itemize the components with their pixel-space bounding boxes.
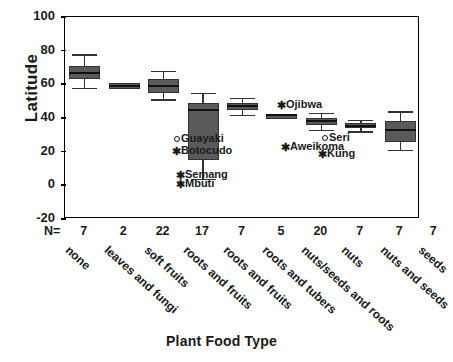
- n-value-5: 7: [222, 224, 262, 238]
- x-category-label-5: roots and fruits: [220, 243, 295, 312]
- sample-size-row: N= 7222177520777: [0, 224, 443, 240]
- whisker-cap-upper: [72, 54, 97, 56]
- outlier-annotation-guayaki: Guayaki: [172, 132, 224, 144]
- whisker-cap-lower: [230, 115, 255, 117]
- n-value-8: 7: [340, 224, 380, 238]
- n-value-3: 22: [143, 224, 183, 238]
- whisker-upper: [84, 54, 85, 66]
- whisker-cap-upper: [348, 120, 373, 122]
- median-line: [188, 109, 219, 111]
- y-tick-label: 20: [15, 143, 55, 158]
- whisker-lower: [84, 79, 85, 87]
- x-category-label-10: seeds: [416, 243, 451, 276]
- median-line: [345, 125, 376, 127]
- x-category-label-4: roots and fruits: [181, 243, 256, 312]
- n-value-1: 7: [64, 224, 104, 238]
- whisker-cap-upper: [151, 71, 176, 73]
- asterisk-icon: ✱: [281, 140, 290, 153]
- whisker-cap-upper: [191, 93, 216, 95]
- y-tick-mark: [61, 184, 66, 186]
- median-line: [266, 114, 297, 116]
- x-axis-category-labels: noneleaves and fungisoft fruitsroots and…: [0, 243, 443, 323]
- median-line: [148, 85, 179, 87]
- median-line: [109, 85, 140, 87]
- median-line: [227, 105, 258, 107]
- y-tick-label: 60: [15, 75, 55, 90]
- whisker-cap-upper: [230, 98, 255, 100]
- median-line: [306, 120, 337, 122]
- whisker-upper: [202, 93, 203, 103]
- n-value-10: 7: [413, 224, 453, 238]
- whisker-upper: [400, 111, 401, 121]
- y-tick-label: 80: [15, 42, 55, 57]
- x-category-label-8: nuts: [338, 243, 366, 270]
- median-line: [69, 72, 100, 74]
- outlier-annotation-mbuti: ✱Mbuti: [176, 177, 214, 190]
- outlier-annotation-botocudo: ✱Botocudo: [172, 144, 232, 157]
- outlier-label: Guayaki: [181, 132, 224, 144]
- n-label: N=: [44, 224, 60, 238]
- whisker-cap-lower: [151, 99, 176, 101]
- outlier-label: Kung: [327, 147, 355, 159]
- y-tick-mark: [61, 16, 66, 18]
- median-line: [385, 129, 416, 131]
- y-tick-label: 40: [15, 109, 55, 124]
- x-category-label-1: none: [62, 243, 93, 273]
- plot-area: 100806040200-20: [64, 16, 419, 218]
- n-value-2: 2: [103, 224, 143, 238]
- asterisk-icon: ✱: [318, 147, 327, 160]
- y-tick-label: -20: [15, 210, 55, 225]
- y-tick-label: 100: [15, 8, 55, 23]
- x-axis-title: Plant Food Type: [0, 333, 443, 349]
- outlier-label: Ojibwa: [286, 98, 322, 110]
- outlier-annotation-ojibwa: ✱Ojibwa: [277, 98, 322, 111]
- n-value-4: 17: [182, 224, 222, 238]
- outlier-label: Mbuti: [185, 177, 214, 189]
- open-circle-icon: [320, 131, 329, 143]
- whisker-cap-lower: [348, 131, 373, 133]
- outlier-annotation-kung: ✱Kung: [318, 147, 355, 160]
- outlier-label: Botocudo: [181, 144, 232, 156]
- whisker-lower: [400, 142, 401, 150]
- whisker-cap-lower: [72, 88, 97, 90]
- outlier-annotation-seri: Seri: [320, 131, 350, 143]
- asterisk-icon: ✱: [277, 98, 286, 111]
- whisker-cap-upper: [309, 113, 334, 115]
- outlier-label: Seri: [329, 131, 350, 143]
- asterisk-icon: ✱: [176, 177, 185, 190]
- n-value-6: 5: [261, 224, 301, 238]
- asterisk-icon: ✱: [172, 144, 181, 157]
- box-rect: [385, 121, 416, 141]
- whisker-cap-lower: [388, 150, 413, 152]
- y-tick-mark: [61, 117, 66, 119]
- y-tick-mark: [61, 151, 66, 153]
- n-value-7: 20: [300, 224, 340, 238]
- y-tick-mark: [61, 83, 66, 85]
- whisker-cap-upper: [388, 111, 413, 113]
- y-tick-mark: [61, 50, 66, 52]
- open-circle-icon: [172, 132, 181, 144]
- y-tick-mark: [61, 218, 66, 220]
- whisker-lower: [163, 93, 164, 100]
- y-tick-label: 0: [15, 176, 55, 191]
